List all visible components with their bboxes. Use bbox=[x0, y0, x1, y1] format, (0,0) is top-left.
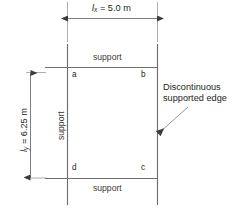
corner-label-d: d bbox=[72, 163, 77, 173]
dimension-value-vertical: = 6.25 m bbox=[19, 108, 29, 147]
dimension-label-vertical: ly = 6.25 m bbox=[19, 108, 30, 152]
dimension-subscript-y: y bbox=[22, 147, 29, 150]
annotation-line-2: supported edge bbox=[163, 93, 227, 103]
annotation-line-1: Discontinuous bbox=[163, 82, 221, 92]
dimension-label-horizontal: lx = 5.0 m bbox=[92, 3, 131, 14]
support-label-left: support bbox=[56, 111, 66, 140]
corner-label-c: c bbox=[141, 163, 145, 173]
slab-panel-diagram: lx = 5.0 m ly = 6.25 m support support s… bbox=[0, 0, 239, 213]
support-label-bottom: support bbox=[93, 183, 122, 193]
discontinuous-edge-annotation: Discontinuous supported edge bbox=[163, 82, 239, 105]
support-label-top: support bbox=[93, 52, 122, 62]
corner-label-a: a bbox=[72, 70, 77, 80]
annotation-leader-line bbox=[159, 107, 188, 133]
dimension-value-horizontal: = 5.0 m bbox=[97, 3, 130, 13]
diagram-canvas bbox=[0, 0, 239, 213]
corner-label-b: b bbox=[141, 70, 146, 80]
